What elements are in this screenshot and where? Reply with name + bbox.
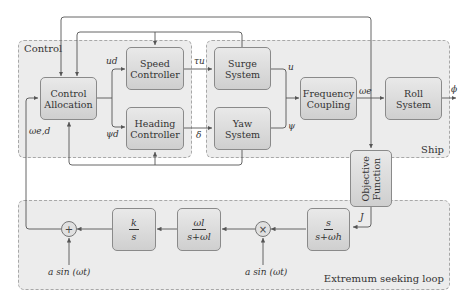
- signal-omega-e: ωe: [359, 86, 372, 96]
- signal-psi: ψ: [288, 121, 295, 131]
- highpass-denominator: s+ωh: [315, 230, 342, 242]
- surge-system-block: SurgeSystem: [214, 47, 271, 90]
- signal-phi: ϕ: [451, 84, 457, 94]
- roll-system-line2: System: [396, 99, 431, 110]
- sum-junction: +: [61, 221, 77, 237]
- signal-omega-ed: ωe,d: [29, 126, 50, 136]
- demodulation-signal-label: a sin (ωt): [245, 267, 287, 277]
- speed-controller-block: SpeedController: [126, 47, 184, 90]
- signal-J: J: [360, 212, 364, 222]
- roll-system-line1: Roll: [396, 88, 431, 99]
- frequency-coupling-line1: Frequency: [303, 88, 354, 99]
- integrator-block: ks: [112, 208, 156, 251]
- roll-system-block: RollSystem: [385, 77, 442, 120]
- lowpass-denominator: s+ωl: [187, 230, 211, 242]
- lowpass-numerator: ωl: [192, 217, 207, 230]
- surge-system-line1: Surge: [225, 58, 260, 69]
- frequency-coupling-line2: Coupling: [303, 99, 354, 110]
- yaw-system-line2: System: [225, 129, 260, 140]
- highpass-numerator: s: [324, 217, 333, 230]
- speed-controller-line2: Controller: [130, 69, 179, 80]
- heading-controller-line2: Controller: [130, 129, 179, 140]
- control-allocation-line1: Control: [44, 88, 92, 99]
- lowpass-filter-block: ωls+ωl: [177, 208, 221, 251]
- dither-signal-label: a sin (ωt): [48, 267, 90, 277]
- heading-controller-line1: Heading: [130, 118, 179, 129]
- control-allocation-line2: Allocation: [44, 99, 92, 110]
- yaw-system-line1: Yaw: [225, 118, 260, 129]
- multiply-junction: ×: [255, 221, 271, 237]
- frequency-coupling-block: FrequencyCoupling: [300, 77, 357, 120]
- signal-u: u: [288, 62, 294, 72]
- highpass-filter-block: ss+ωh: [307, 208, 350, 251]
- yaw-system-block: YawSystem: [214, 107, 271, 150]
- signal-delta: δ: [196, 130, 201, 140]
- signal-u-d: ud: [106, 56, 118, 66]
- objective-function-block: ObjectiveFunction: [350, 150, 392, 207]
- objective-function-line2: Function: [371, 156, 382, 202]
- surge-system-line2: System: [225, 69, 260, 80]
- speed-controller-line1: Speed: [130, 58, 179, 69]
- integrator-denominator: s: [132, 230, 137, 242]
- integrator-numerator: k: [129, 217, 139, 230]
- signal-psi-d: ψd: [106, 129, 119, 139]
- control-allocation-block: ControlAllocation: [40, 77, 97, 120]
- objective-function-line1: Objective: [360, 156, 371, 202]
- heading-controller-block: HeadingController: [126, 107, 184, 150]
- signal-wires: [0, 0, 474, 303]
- signal-tau-u: τu: [194, 56, 205, 66]
